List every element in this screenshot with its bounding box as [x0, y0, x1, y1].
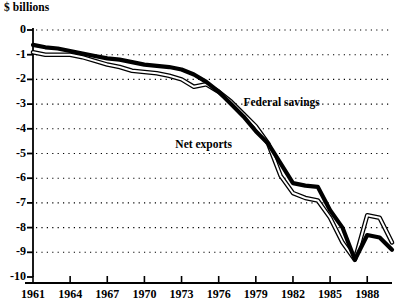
- x-axis-tick-label: 1979: [236, 287, 276, 302]
- y-axis-tick-label: -2: [0, 71, 26, 86]
- x-axis-tick-label: 1976: [199, 287, 239, 302]
- y-axis-tick-label: -3: [0, 96, 26, 111]
- x-axis-tick-label: 1973: [162, 287, 202, 302]
- y-axis-tick-label: -4: [0, 121, 26, 136]
- y-axis-tick-label: -1: [0, 47, 26, 62]
- x-axis-tick-label: 1967: [87, 287, 127, 302]
- chart-container: $ billions 0-1-2-3-4-5-6-7-8-9-10 196119…: [0, 0, 398, 306]
- y-axis-tick-label: 0: [0, 22, 26, 37]
- y-axis-tick-label: -9: [0, 244, 26, 259]
- chart-plot-area: [0, 0, 398, 306]
- x-axis-tick-label: 1961: [13, 287, 53, 302]
- y-axis-tick-label: -6: [0, 170, 26, 185]
- x-axis-tick-label: 1970: [124, 287, 164, 302]
- series-line-net-exports-core: [33, 52, 392, 259]
- x-axis-tick-label: 1985: [310, 287, 350, 302]
- series-line-net-exports-outline: [33, 52, 392, 259]
- series-label-federal-savings: Federal savings: [243, 96, 319, 108]
- x-axis-tick-label: 1988: [347, 287, 387, 302]
- y-axis-tick-label: -8: [0, 220, 26, 235]
- y-axis-tick-label: -7: [0, 195, 26, 210]
- series-line-federal-savings: [33, 45, 392, 260]
- x-axis-tick-label: 1964: [50, 287, 90, 302]
- series-label-net-exports: Net exports: [175, 138, 232, 150]
- y-axis-tick-label: -10: [0, 269, 26, 284]
- x-axis-tick-label: 1982: [273, 287, 313, 302]
- y-axis-tick-label: -5: [0, 146, 26, 161]
